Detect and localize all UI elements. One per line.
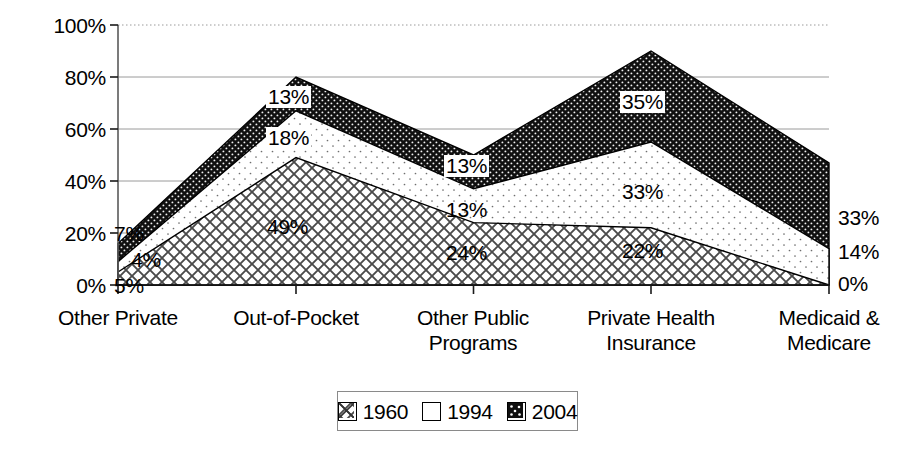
stacked-area-chart: 100% 80% 60% 40% 20% 0% 7% 4% 5% 33% 14%… xyxy=(0,0,912,455)
data-label-opp-1994: 13% xyxy=(444,199,489,221)
data-label-oop-1994: 18% xyxy=(266,127,311,149)
data-label-oop-2004: 13% xyxy=(266,86,311,108)
right-label-1960: 0% xyxy=(838,272,868,296)
data-label-opp-1960: 24% xyxy=(444,242,489,264)
legend-label-1994: 1994 xyxy=(447,401,493,422)
right-label-1994: 14% xyxy=(838,240,879,264)
x-category-other-public-programs: Other Public Programs xyxy=(378,305,568,355)
data-label-phi-1994: 33% xyxy=(620,181,665,203)
y-tick-60: 60% xyxy=(8,118,106,142)
x-category-out-of-pocket: Out-of-Pocket xyxy=(201,305,391,330)
x-category-other-private: Other Private xyxy=(23,305,213,330)
x-category-private-health-insurance: Private Health Insurance xyxy=(556,305,746,355)
crosshatch-swatch xyxy=(338,402,357,421)
white-swatch xyxy=(422,402,441,421)
legend-label-1960: 1960 xyxy=(363,401,409,422)
y-tick-0: 0% xyxy=(8,274,106,298)
dark-dots-swatch xyxy=(507,402,526,421)
data-label-oop-1960: 49% xyxy=(265,216,310,238)
y-tick-80: 80% xyxy=(8,66,106,90)
data-label-phi-1960: 22% xyxy=(620,240,665,262)
legend-item-1994: 1994 xyxy=(422,401,493,422)
y-tick-20: 20% xyxy=(8,222,106,246)
left-label-1994: 4% xyxy=(131,248,161,272)
right-label-2004: 33% xyxy=(838,206,879,230)
legend-item-2004: 2004 xyxy=(507,401,578,422)
x-category-medicaid-medicare: Medicaid & Medicare xyxy=(734,305,912,355)
left-label-2004: 7% xyxy=(114,222,144,246)
y-tick-100: 100% xyxy=(8,14,106,38)
data-label-phi-2004: 35% xyxy=(620,91,665,113)
chart-legend: 1960 1994 2004 xyxy=(337,391,578,431)
data-label-opp-2004: 13% xyxy=(444,155,489,177)
legend-label-2004: 2004 xyxy=(532,401,578,422)
left-label-1960: 5% xyxy=(114,274,144,298)
legend-item-1960: 1960 xyxy=(338,401,409,422)
y-tick-40: 40% xyxy=(8,170,106,194)
